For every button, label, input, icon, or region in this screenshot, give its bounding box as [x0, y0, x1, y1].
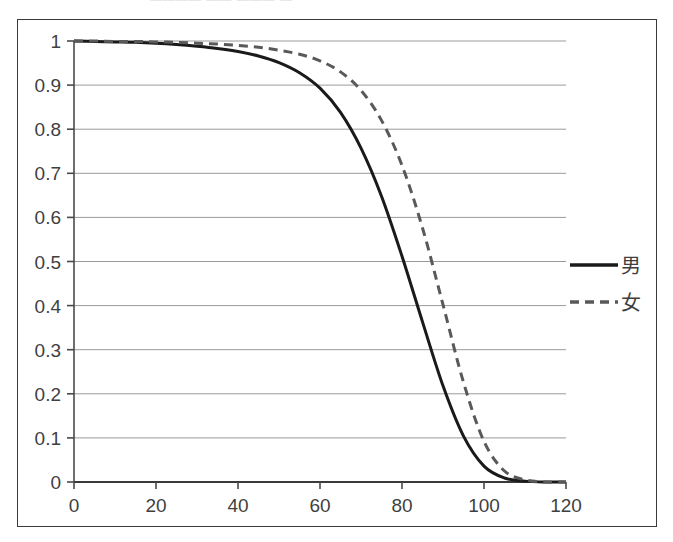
y-tick-label: 1: [50, 31, 61, 52]
x-tick-label: 80: [391, 495, 412, 516]
y-tick-label: 0: [50, 472, 61, 493]
legend-label-女: 女: [621, 292, 641, 314]
y-tick-label: 0.4: [35, 296, 62, 317]
clipped-title-text: ———— —— ——— —: [150, 0, 330, 5]
tick-marks-group: [67, 41, 566, 489]
chart-svg: 00.10.20.30.40.50.60.70.80.91 0204060801…: [18, 20, 656, 526]
y-tick-label: 0.1: [35, 428, 61, 449]
gridlines-group: [74, 41, 566, 482]
x-tick-label: 0: [69, 495, 80, 516]
x-tick-label: 60: [309, 495, 330, 516]
chart-figure: ———— —— ——— — 00.10.20.30.40.50.60.70.80…: [0, 0, 673, 542]
y-tick-label: 0.2: [35, 384, 61, 405]
y-tick-label: 0.6: [35, 207, 61, 228]
x-tick-label: 100: [468, 495, 500, 516]
y-tick-label: 0.9: [35, 75, 61, 96]
y-tick-label: 0.3: [35, 340, 61, 361]
y-axis-tick-labels: 00.10.20.30.40.50.60.70.80.91: [35, 31, 62, 493]
chart-plot-frame: 00.10.20.30.40.50.60.70.80.91 0204060801…: [17, 19, 657, 527]
y-tick-label: 0.5: [35, 252, 61, 273]
y-tick-label: 0.7: [35, 163, 61, 184]
x-tick-label: 40: [227, 495, 248, 516]
x-axis-tick-labels: 020406080100120: [69, 495, 582, 516]
legend-label-男: 男: [621, 255, 641, 277]
chart-legend: 男女: [570, 255, 641, 314]
x-tick-label: 120: [550, 495, 582, 516]
y-tick-label: 0.8: [35, 119, 61, 140]
x-tick-label: 20: [145, 495, 166, 516]
